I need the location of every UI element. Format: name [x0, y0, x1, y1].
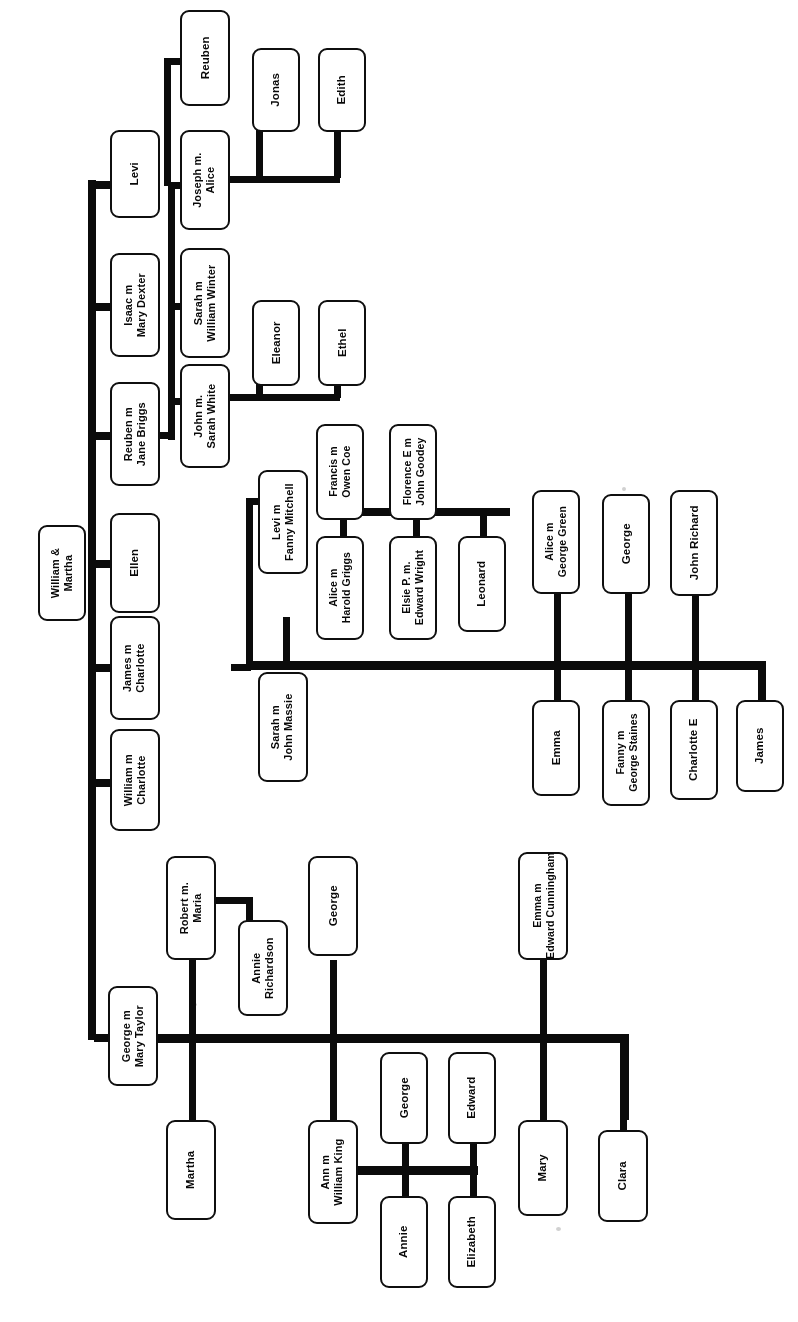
connector-taylor-bar-end: [620, 1034, 629, 1120]
scan-artifact: [556, 1227, 561, 1231]
connector-james-children-bar: [246, 498, 253, 670]
node-francis-owen-coe[interactable]: Francis mOwen Coe: [316, 424, 364, 520]
connector-annking-stub: [330, 1040, 337, 1122]
connector-georgemassie-stub: [625, 592, 632, 664]
connector-joseph-down: [222, 176, 340, 183]
node-eleanor[interactable]: Eleanor: [252, 300, 300, 386]
node-label: Alice mGeorge Green: [543, 506, 568, 577]
node-levi-fanny-mitchell[interactable]: Levi mFanny Mitchell: [258, 470, 308, 574]
node-william-and-martha[interactable]: William &Martha: [38, 525, 86, 621]
node-label: Clara: [616, 1161, 630, 1190]
node-joseph-alice[interactable]: Joseph m.Alice: [180, 130, 230, 230]
node-label: Ellen: [128, 549, 142, 577]
node-jonas[interactable]: Jonas: [252, 48, 300, 132]
node-label: Sarah mJohn Massie: [270, 693, 296, 760]
connector-johnrichard-stub: [692, 592, 699, 664]
node-label: Levi mFanny Mitchell: [270, 483, 296, 561]
node-label: Mary: [536, 1154, 550, 1181]
node-alice-harold-griggs[interactable]: Alice mHarold Griggs: [316, 536, 364, 640]
node-martha[interactable]: Martha: [166, 1120, 216, 1220]
node-label: Leonard: [475, 561, 489, 607]
node-label: Eleanor: [269, 322, 283, 365]
family-tree-chart: William &Martha Levi Isaac mMary Dexter …: [0, 0, 798, 1322]
node-sarah-william-winter[interactable]: Sarah mWilliam Winter: [180, 248, 230, 358]
node-robert-maria[interactable]: Robert m.Maria: [166, 856, 216, 960]
node-james-charlotte[interactable]: James mCharlotte: [110, 616, 160, 720]
connector-emmamassie-stub: [554, 666, 561, 702]
connector-charlottee-stub: [692, 666, 699, 702]
node-label: Alice mHarold Griggs: [327, 552, 352, 623]
node-label: Florence E mJohn Goodey: [400, 438, 425, 506]
node-label: Robert m.Maria: [178, 882, 204, 934]
connector-massie-sibling-bar: [246, 661, 766, 670]
connector-alicegreen-stub: [554, 592, 561, 664]
node-label: Ann mWilliam King: [320, 1138, 346, 1205]
node-john-sarah-white[interactable]: John m.Sarah White: [180, 364, 230, 468]
node-label: George: [326, 886, 340, 927]
connector-joseph-to-reuben-child: [164, 58, 171, 186]
node-label: Reuben: [198, 37, 212, 80]
node-william-charlotte[interactable]: William mCharlotte: [110, 729, 160, 831]
node-leonard[interactable]: Leonard: [458, 536, 506, 632]
node-levi[interactable]: Levi: [110, 130, 160, 218]
node-ethel[interactable]: Ethel: [318, 300, 366, 386]
node-label: Edith: [335, 75, 349, 104]
connector-mary-stub: [540, 1040, 547, 1122]
node-label: Emma mEdward Cunningham: [530, 853, 555, 960]
node-ellen[interactable]: Ellen: [110, 513, 160, 613]
connector-fannystaines-stub: [625, 666, 632, 702]
node-george-taylor-son[interactable]: George: [308, 856, 358, 956]
node-label: James: [753, 728, 767, 764]
node-edith[interactable]: Edith: [318, 48, 366, 132]
node-clara[interactable]: Clara: [598, 1130, 648, 1222]
node-fanny-george-staines[interactable]: Fanny mGeorge Staines: [602, 700, 650, 806]
connector-johnwhite-bar: [222, 394, 340, 401]
node-label: Elizabeth: [465, 1216, 479, 1267]
node-isaac-mary-dexter[interactable]: Isaac mMary Dexter: [110, 253, 160, 357]
node-label: Jonas: [269, 73, 283, 107]
node-label: Fanny mGeorge Staines: [613, 714, 638, 792]
node-ann-william-king[interactable]: Ann mWilliam King: [308, 1120, 358, 1224]
node-alice-george-green[interactable]: Alice mGeorge Green: [532, 490, 580, 594]
node-emma-edward-cunningham[interactable]: Emma mEdward Cunningham: [518, 852, 568, 960]
node-label: AnnieRichardson: [250, 937, 276, 999]
node-label: Francis mOwen Coe: [327, 446, 352, 498]
node-king-george[interactable]: George: [380, 1052, 428, 1144]
node-sarah-john-massie[interactable]: Sarah mJohn Massie: [258, 672, 308, 782]
connector-emmacunn-stub: [540, 960, 547, 1038]
node-mary[interactable]: Mary: [518, 1120, 568, 1216]
node-label: William &Martha: [49, 548, 75, 598]
node-label: William mCharlotte: [122, 754, 148, 806]
connector-robert-stub: [189, 960, 196, 1038]
connector-sarahmassie-stem: [283, 617, 290, 667]
node-king-edward[interactable]: Edward: [448, 1052, 496, 1144]
node-label: James mCharlotte: [122, 643, 148, 692]
node-label: George mMary Taylor: [120, 1005, 146, 1067]
node-label: Isaac mMary Dexter: [122, 273, 148, 337]
node-reuben-child[interactable]: Reuben: [180, 10, 230, 106]
connector-clara-stub: [620, 1112, 627, 1132]
node-king-elizabeth[interactable]: Elizabeth: [448, 1196, 496, 1288]
node-label: George: [397, 1078, 411, 1119]
node-george-massie[interactable]: George: [602, 494, 650, 594]
node-label: Sarah mWilliam Winter: [192, 265, 218, 342]
node-label: John Richard: [687, 506, 701, 581]
node-label: Emma: [549, 731, 563, 766]
node-charlotte-e[interactable]: Charlotte E: [670, 700, 718, 800]
node-label: Levi: [128, 162, 142, 185]
node-label: Ethel: [335, 329, 349, 358]
node-label: Elsie P. m.Edward Wright: [400, 550, 425, 625]
node-elsie-edward-wright[interactable]: Elsie P. m.Edward Wright: [389, 536, 437, 640]
connector-massie-bar-end: [758, 661, 766, 701]
node-james-massie[interactable]: James: [736, 700, 784, 792]
node-john-richard[interactable]: John Richard: [670, 490, 718, 596]
node-reuben-jane-briggs[interactable]: Reuben mJane Briggs: [110, 382, 160, 486]
node-annie-richardson[interactable]: AnnieRichardson: [238, 920, 288, 1016]
connector-martha-stub: [189, 1040, 196, 1122]
node-florence-john-goodey[interactable]: Florence E mJohn Goodey: [389, 424, 437, 520]
node-george-mary-taylor[interactable]: George mMary Taylor: [108, 986, 158, 1086]
node-king-annie[interactable]: Annie: [380, 1196, 428, 1288]
node-emma-massie[interactable]: Emma: [532, 700, 580, 796]
node-label: George: [619, 524, 633, 565]
connector-taylor-sibling-bar: [160, 1034, 628, 1043]
